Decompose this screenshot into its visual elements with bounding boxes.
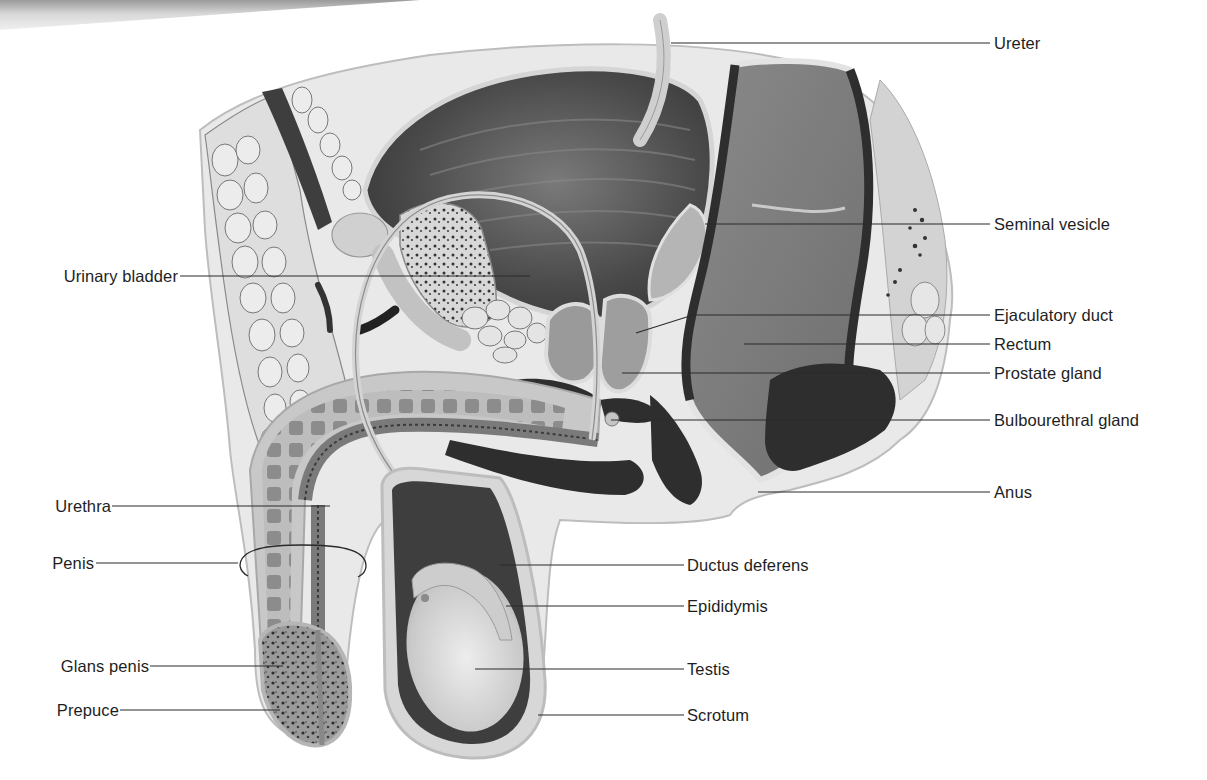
label-epididymis: Epididymis [687, 598, 768, 615]
anatomy-illustration [0, 0, 1207, 780]
label-anus: Anus [994, 484, 1032, 501]
label-ejaculatory-duct: Ejaculatory duct [994, 307, 1113, 324]
label-urinary-bladder: Urinary bladder [64, 268, 178, 285]
label-rectum: Rectum [994, 336, 1051, 353]
label-ureter: Ureter [994, 35, 1040, 52]
label-scrotum: Scrotum [687, 707, 749, 724]
label-bulbourethral-gland: Bulbourethral gland [994, 412, 1139, 429]
label-glans-penis: Glans penis [61, 658, 149, 675]
label-ductus-deferens: Ductus deferens [687, 557, 809, 574]
label-prepuce: Prepuce [57, 702, 119, 719]
label-testis: Testis [687, 661, 730, 678]
label-prostate-gland: Prostate gland [994, 365, 1102, 382]
glans-penis-shape [260, 623, 350, 745]
diagram-stage: Urinary bladder Urethra Penis Glans peni… [0, 0, 1207, 780]
label-urethra: Urethra [55, 498, 111, 515]
label-seminal-vesicle: Seminal vesicle [994, 216, 1110, 233]
bulbourethral-gland-shape [605, 412, 619, 426]
label-penis: Penis [52, 555, 94, 572]
